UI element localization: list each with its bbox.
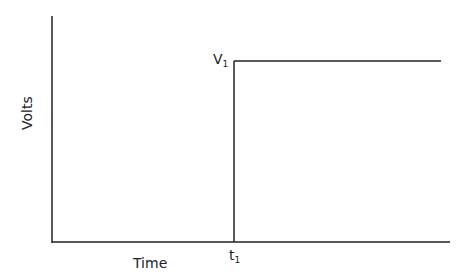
step-function-plot	[0, 0, 468, 278]
x-axis-label: Time	[133, 256, 167, 270]
t1-label: t1	[229, 248, 240, 265]
v1-main: V	[213, 51, 223, 67]
v1-subscript: 1	[223, 59, 229, 69]
v1-label: V1	[213, 52, 228, 69]
t1-subscript: 1	[235, 255, 241, 265]
y-axis-label: Volts	[20, 96, 34, 130]
